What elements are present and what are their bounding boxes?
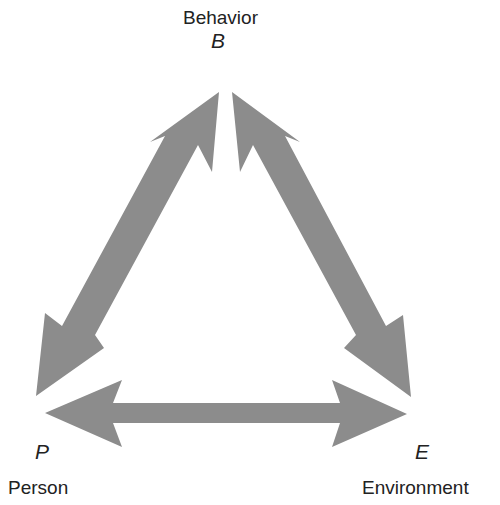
triad-arrows (0, 0, 500, 505)
arrow-person-environment (45, 380, 407, 447)
arrow-behavior-person (36, 92, 219, 396)
arrow-behavior-environment (232, 92, 411, 397)
